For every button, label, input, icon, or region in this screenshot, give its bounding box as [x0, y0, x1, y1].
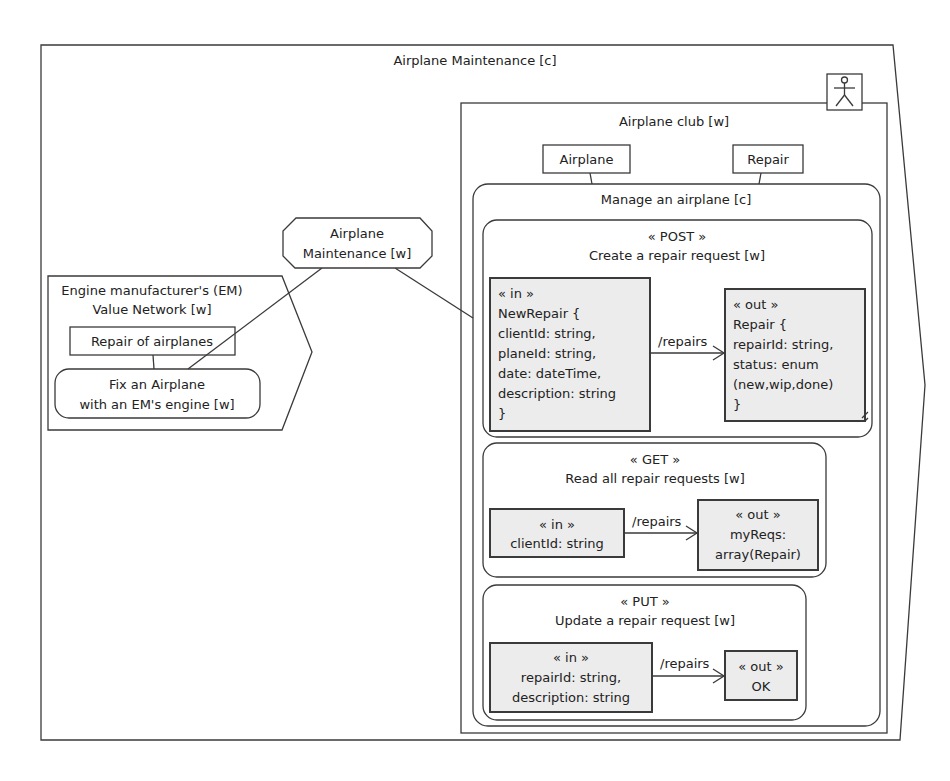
activity-fix-airplane-label: Fix an Airplane: [109, 377, 205, 392]
post-path-label: /repairs: [658, 334, 708, 349]
outer-frame-title: Airplane Maintenance [c]: [393, 53, 556, 68]
em-network-title: Engine manufacturer's (EM): [61, 283, 242, 298]
post-input-line: planeId: string,: [498, 346, 596, 361]
post-output-line: « out »: [733, 297, 778, 312]
maintenance-node[interactable]: Airplane Maintenance [w]: [283, 218, 432, 268]
activity-fix-airplane-label: with an EM's engine [w]: [79, 397, 234, 412]
diagram-canvas: Airplane Maintenance [c] Airplane club […: [0, 0, 950, 781]
operation-post[interactable]: « POST » Create a repair request [w] « i…: [483, 220, 872, 437]
get-input-line: clientId: string: [510, 536, 604, 551]
get-output-line: array(Repair): [715, 547, 801, 562]
put-output-line: « out »: [738, 659, 783, 674]
em-value-network[interactable]: Engine manufacturer's (EM) Value Network…: [48, 276, 312, 430]
maintenance-node-label: Airplane: [330, 226, 384, 241]
put-title: Update a repair request [w]: [555, 613, 735, 628]
operation-put[interactable]: « PUT » Update a repair request [w] « in…: [483, 585, 806, 720]
entity-airplane-label: Airplane: [560, 152, 614, 167]
actor-icon: [827, 74, 862, 110]
post-input-line: NewRepair {: [498, 306, 580, 321]
put-input-line: « in »: [553, 650, 589, 665]
put-stereotype: « PUT »: [620, 594, 669, 609]
post-input-line: clientId: string,: [498, 326, 596, 341]
get-path-label: /repairs: [632, 514, 682, 529]
post-output-line: (new,wip,done): [733, 377, 833, 392]
post-output-line: repairId: string,: [733, 337, 833, 352]
post-input-line: date: dateTime,: [498, 366, 601, 381]
get-input-line: « in »: [539, 517, 575, 532]
entity-repair-label: Repair: [747, 152, 789, 167]
get-output-line: « out »: [735, 507, 780, 522]
put-output-line: OK: [752, 679, 771, 694]
operation-get[interactable]: « GET » Read all repair requests [w] « i…: [483, 443, 826, 577]
get-output-line: myReqs:: [730, 527, 786, 542]
entity-repair-of-airplanes-label: Repair of airplanes: [91, 334, 213, 349]
get-title: Read all repair requests [w]: [565, 471, 745, 486]
post-output-line: status: enum: [733, 357, 819, 372]
maintenance-node-label: Maintenance [w]: [303, 246, 412, 261]
manage-airplane-title: Manage an airplane [c]: [601, 192, 752, 207]
post-input-line: « in »: [498, 286, 534, 301]
put-path-label: /repairs: [660, 656, 710, 671]
post-output-line: Repair {: [733, 317, 787, 332]
post-output-line: }: [733, 397, 741, 412]
post-input-line: }: [498, 406, 506, 421]
get-stereotype: « GET »: [630, 452, 680, 467]
em-network-title: Value Network [w]: [92, 302, 211, 317]
airplane-club-title: Airplane club [w]: [619, 114, 729, 129]
entity-airplane[interactable]: Airplane: [543, 145, 630, 173]
post-title: Create a repair request [w]: [589, 248, 765, 263]
put-input-line: repairId: string,: [521, 670, 621, 685]
entity-repair[interactable]: Repair: [733, 145, 803, 173]
put-input-line: description: string: [512, 690, 630, 705]
post-input-line: description: string: [498, 386, 616, 401]
post-stereotype: « POST »: [648, 229, 706, 244]
